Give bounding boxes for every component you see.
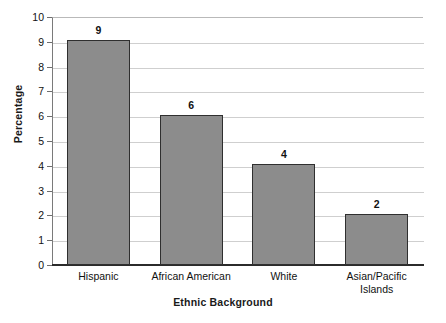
bar-value-label: 2 — [337, 198, 417, 210]
y-tick-label: 5 — [4, 136, 44, 146]
bar — [345, 214, 408, 265]
bar — [252, 164, 315, 265]
y-tick-label: 4 — [4, 161, 44, 171]
y-tick-mark-2 — [47, 215, 52, 216]
bar — [67, 40, 130, 265]
y-tick-mark-4 — [47, 166, 52, 167]
y-tick-label: 10 — [4, 12, 44, 22]
y-tick-mark-7 — [47, 91, 52, 92]
bar-chart: Percentage 012345678910 9642 HispanicAfr… — [0, 0, 446, 323]
y-tick-label: 1 — [4, 235, 44, 245]
y-tick-mark-3 — [47, 191, 52, 192]
cut-off-caption — [0, 316, 446, 323]
y-tick-mark-10 — [47, 17, 52, 18]
y-tick-label: 8 — [4, 62, 44, 72]
y-tick-label: 3 — [4, 186, 44, 196]
bar-value-label: 9 — [58, 24, 138, 36]
y-tick-label: 9 — [4, 37, 44, 47]
x-axis-title: Ethnic Background — [0, 296, 446, 308]
bar — [160, 115, 223, 265]
y-tick-mark-8 — [47, 67, 52, 68]
y-tick-mark-5 — [47, 141, 52, 142]
y-tick-mark-9 — [47, 42, 52, 43]
y-tick-mark-6 — [47, 116, 52, 117]
y-tick-mark-0 — [47, 265, 52, 266]
y-tick-label: 0 — [4, 260, 44, 270]
y-tick-mark-1 — [47, 240, 52, 241]
y-tick-label: 6 — [4, 111, 44, 121]
y-tick-label: 7 — [4, 86, 44, 96]
x-category-line: Islands — [317, 283, 437, 296]
bar-value-label: 6 — [151, 99, 231, 111]
y-tick-label: 2 — [4, 210, 44, 220]
x-category-label: Asian/PacificIslands — [317, 270, 437, 295]
bar-value-label: 4 — [244, 148, 324, 160]
x-category-line: Asian/Pacific — [317, 270, 437, 283]
